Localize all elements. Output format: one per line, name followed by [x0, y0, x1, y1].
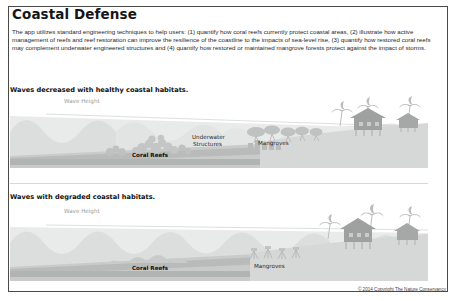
page-title: Coastal Defense — [12, 6, 446, 22]
label-wave-height-healthy: Wave Height — [64, 98, 100, 104]
copyright-notice: © 2014 Copyright The Nature Conservancy — [358, 287, 446, 292]
label-wave-height-degraded: Wave Height — [64, 208, 100, 214]
panel-healthy-habitats: Waves decreased with healthy coastal hab… — [10, 86, 428, 168]
label-coral-reefs-degraded: Coral Reefs — [132, 265, 168, 271]
panel-divider — [10, 183, 428, 184]
label-mangroves-degraded: Mangroves — [254, 263, 285, 269]
cross-section-degraded: Wave Height Coral Reefs Mangroves — [10, 203, 428, 281]
healthy-scene-graphic — [10, 96, 428, 168]
cross-section-healthy: Wave Height Coral Reefs Underwater Struc… — [10, 96, 428, 168]
label-underwater-structures-line1: Underwater — [192, 134, 225, 140]
panel-healthy-title: Waves decreased with healthy coastal hab… — [10, 86, 428, 94]
label-coral-reefs-healthy: Coral Reefs — [132, 152, 168, 158]
panel-degraded-habitats: Waves with degraded coastal habitats. — [10, 193, 428, 281]
header: Coastal Defense The app utilizes standar… — [12, 6, 446, 52]
label-underwater-structures-line2: Structures — [193, 141, 222, 147]
panel-degraded-title: Waves with degraded coastal habitats. — [10, 193, 428, 201]
degraded-scene-graphic — [10, 203, 428, 281]
label-mangroves-healthy: Mangroves — [258, 140, 289, 146]
intro-paragraph: The app utilizes standard engineering te… — [12, 28, 432, 52]
infographic-page: Coastal Defense The app utilizes standar… — [0, 0, 458, 301]
